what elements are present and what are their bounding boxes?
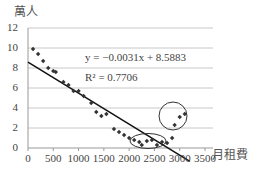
data-point — [41, 59, 45, 63]
data-point — [104, 112, 108, 116]
y-tick-label: 6 — [2, 81, 18, 93]
data-point — [140, 143, 144, 147]
data-point — [46, 66, 50, 70]
y-tick-label: 8 — [2, 61, 18, 73]
data-point — [112, 127, 116, 131]
data-point — [137, 140, 141, 144]
trendline-equation: y = −0.0031x + 8.5883 — [85, 51, 186, 63]
axes — [28, 28, 205, 151]
data-point — [178, 115, 182, 119]
x-tick-label: 2500 — [141, 152, 167, 164]
data-point — [31, 47, 35, 51]
x-tick-label: 1500 — [91, 152, 117, 164]
data-point — [155, 143, 159, 147]
data-point — [170, 136, 174, 140]
r-squared-label: R² = 0.7706 — [85, 71, 138, 83]
data-point — [36, 52, 40, 56]
data-point — [99, 114, 103, 118]
y-tick-label: 12 — [2, 21, 18, 33]
data-point — [132, 138, 136, 142]
data-point — [117, 130, 121, 134]
upturn-cluster-circle — [159, 102, 187, 130]
data-point — [122, 133, 126, 137]
x-tick-label: 3000 — [167, 152, 193, 164]
y-tick-label: 4 — [2, 101, 18, 113]
scatter-chart — [0, 0, 259, 171]
x-tick-label: 1000 — [66, 152, 92, 164]
data-point — [172, 123, 176, 127]
x-tick-label: 0 — [15, 152, 41, 164]
x-tick-label: 500 — [40, 152, 66, 164]
y-tick-label: 10 — [2, 41, 18, 53]
x-tick-label: 3500 — [192, 152, 218, 164]
x-tick-label: 2000 — [116, 152, 142, 164]
gridlines — [28, 28, 213, 148]
y-tick-label: 2 — [2, 121, 18, 133]
data-point — [145, 139, 149, 143]
data-point — [94, 110, 98, 114]
